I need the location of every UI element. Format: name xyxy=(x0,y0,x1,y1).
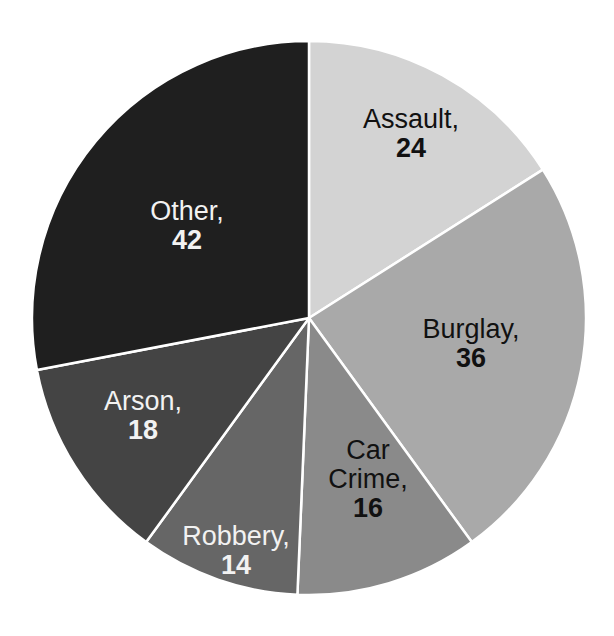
slice-label-car-crime: CarCrime,16 xyxy=(328,436,408,523)
slice-label-name: Robbery, xyxy=(182,522,290,551)
slice-label-name: Assault, xyxy=(363,105,459,134)
slice-label-name: Car xyxy=(328,436,408,465)
slice-label-name: Arson, xyxy=(104,387,182,416)
slice-label-assault: Assault,24 xyxy=(363,105,459,163)
slice-label-value: 36 xyxy=(422,344,519,373)
slice-label-arson: Arson,18 xyxy=(104,387,182,445)
pie-chart xyxy=(0,0,614,636)
slice-label-name: Other, xyxy=(150,197,224,226)
slice-label-value: 16 xyxy=(328,495,408,524)
slice-label-name: Crime, xyxy=(328,465,408,494)
slice-label-name: Burglay, xyxy=(422,315,519,344)
slice-label-burglay: Burglay,36 xyxy=(422,315,519,373)
slice-label-value: 42 xyxy=(150,226,224,255)
slice-label-other: Other,42 xyxy=(150,197,224,255)
slice-label-robbery: Robbery,14 xyxy=(182,522,290,580)
slice-label-value: 18 xyxy=(104,416,182,445)
slice-label-value: 14 xyxy=(182,551,290,580)
slice-label-value: 24 xyxy=(363,134,459,163)
